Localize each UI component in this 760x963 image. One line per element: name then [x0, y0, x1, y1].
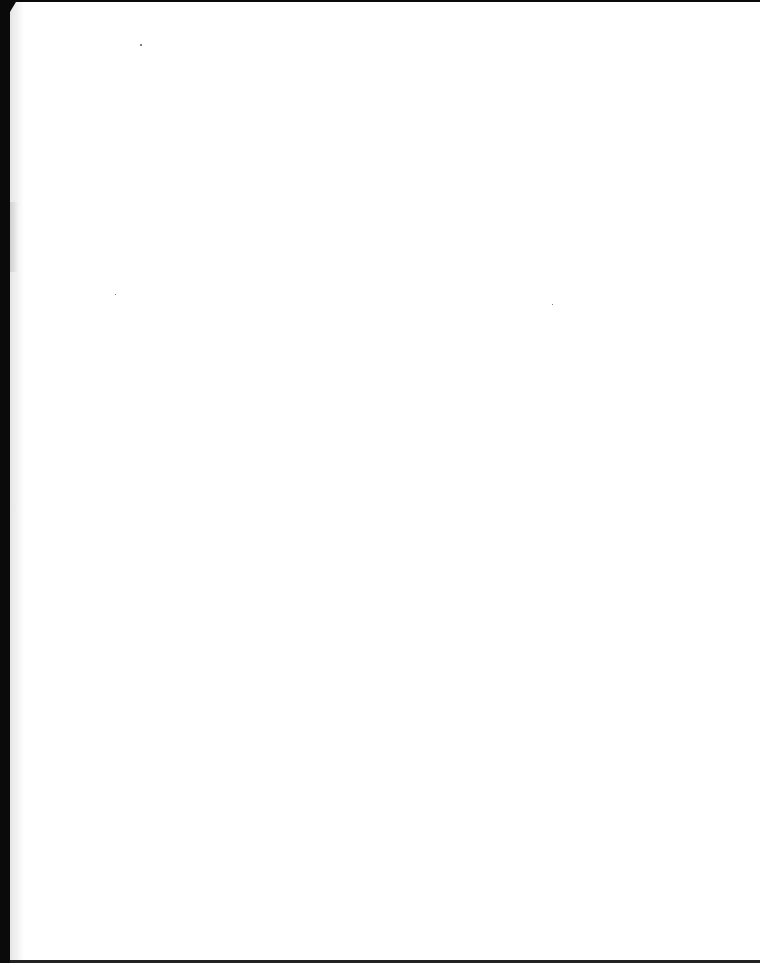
- dust-speck: [140, 44, 142, 46]
- dust-speck: [552, 304, 553, 305]
- dust-speck: [115, 294, 116, 295]
- blank-page: [10, 2, 760, 960]
- page-fold-mark: [10, 202, 18, 272]
- page-edge-shadow: [10, 2, 24, 960]
